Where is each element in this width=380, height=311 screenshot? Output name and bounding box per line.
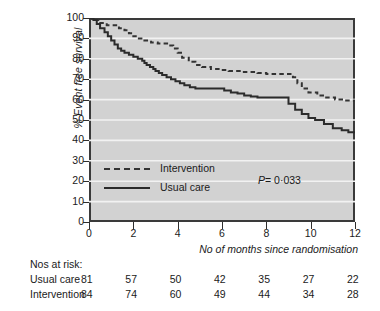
risk-value: 49 — [214, 288, 240, 300]
kaplan-meier-chart: % Event free survival 100908070605040302… — [0, 0, 380, 311]
risk-value: 60 — [170, 288, 196, 300]
legend-key-dashed-icon — [104, 168, 150, 170]
risk-row-label-usual-care: Usual care — [30, 273, 80, 285]
x-axis-tick-mark — [355, 222, 356, 229]
x-axis-tick-label: 12 — [340, 228, 370, 239]
x-axis-tick-label: 2 — [118, 228, 148, 239]
x-axis-tick-mark — [178, 222, 179, 229]
legend-label-usual-care: Usual care — [160, 179, 210, 196]
risk-value: 74 — [125, 288, 151, 300]
p-value-number: = 0·033 — [265, 174, 301, 186]
x-axis-tick-label: 8 — [251, 228, 281, 239]
p-value-annotation: P= 0·033 — [258, 174, 301, 186]
legend-label-intervention: Intervention — [160, 160, 215, 177]
risk-value: 57 — [125, 273, 151, 285]
x-axis-tick-mark — [222, 222, 223, 229]
x-axis-label: No of months since randomisation — [178, 243, 358, 255]
x-axis-tick-mark — [89, 222, 90, 229]
legend-key-solid-icon — [104, 187, 150, 189]
x-axis-tick-label: 10 — [296, 228, 326, 239]
risk-value: 35 — [258, 273, 284, 285]
risk-value: 22 — [347, 273, 373, 285]
table-row: Usual care 81575042352722 — [30, 273, 380, 287]
risk-value: 28 — [347, 288, 373, 300]
x-axis-tick-mark — [133, 222, 134, 229]
p-value-symbol: P — [258, 174, 265, 186]
risk-table-title: Nos at risk: — [30, 258, 83, 270]
x-axis-tick-label: 6 — [207, 228, 237, 239]
risk-value: 84 — [81, 288, 107, 300]
table-row: Intervention 84746049443428 — [30, 288, 380, 302]
risk-value: 42 — [214, 273, 240, 285]
legend-item-usual-care: Usual care — [104, 179, 254, 198]
risk-value: 81 — [81, 273, 107, 285]
legend: Intervention Usual care — [104, 160, 254, 198]
risk-row-label-intervention: Intervention — [30, 288, 85, 300]
legend-item-intervention: Intervention — [104, 160, 254, 179]
x-axis-tick-label: 4 — [163, 228, 193, 239]
risk-value: 50 — [170, 273, 196, 285]
risk-value: 34 — [303, 288, 329, 300]
x-axis-tick-mark — [266, 222, 267, 229]
x-axis-tick-label: 0 — [74, 228, 104, 239]
risk-value: 44 — [258, 288, 284, 300]
x-axis-tick-mark — [311, 222, 312, 229]
risk-value: 27 — [303, 273, 329, 285]
